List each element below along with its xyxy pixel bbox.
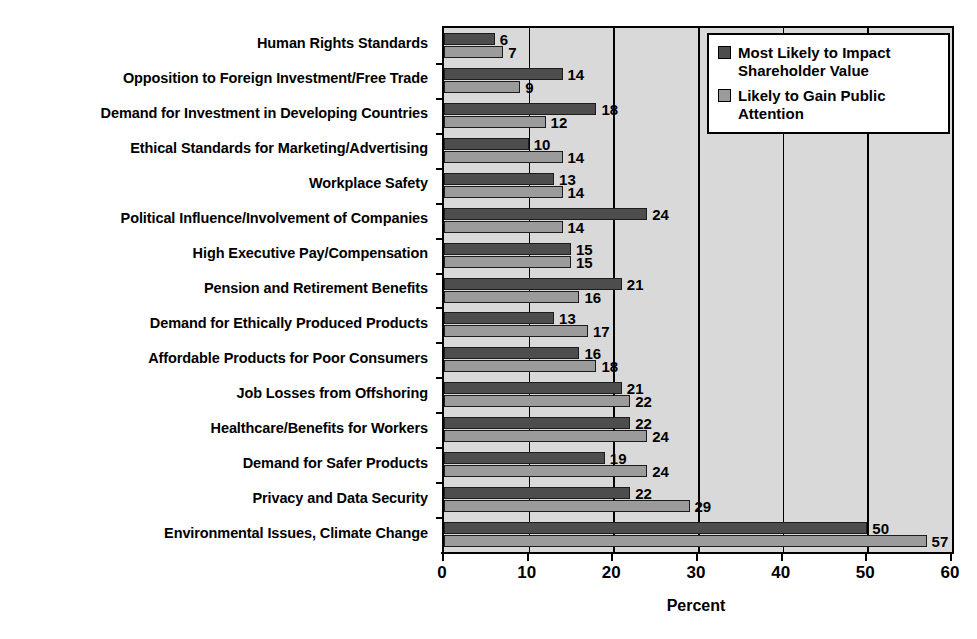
category-label: Workplace Safety [309, 176, 428, 191]
bar-1 [444, 81, 520, 93]
x-tick-label: 10 [517, 564, 536, 581]
bar-0 [444, 382, 622, 394]
bar-1 [444, 430, 647, 442]
bar-0 [444, 487, 630, 499]
bar-0 [444, 312, 554, 324]
bar-value-label: 14 [568, 149, 585, 164]
bar-0 [444, 243, 571, 255]
dark-swatch-icon [718, 46, 731, 59]
x-tick-label: 20 [602, 564, 621, 581]
legend-entry-most-likely-impact: Most Likely to Impact Shareholder Value [718, 44, 938, 79]
category-label: Affordable Products for Poor Consumers [148, 351, 428, 366]
bar-0 [444, 417, 630, 429]
y-tick [436, 447, 444, 449]
bar-value-label: 16 [584, 346, 601, 361]
category-label: Pension and Retirement Benefits [204, 281, 428, 296]
y-tick [436, 412, 444, 414]
category-label: Political Influence/Involvement of Compa… [121, 211, 428, 226]
bar-1 [444, 186, 563, 198]
bar-1 [444, 465, 647, 477]
y-tick [436, 63, 444, 65]
bar-0 [444, 103, 596, 115]
x-tick-60 [950, 552, 952, 561]
gridline-30 [698, 28, 700, 552]
category-axis: Human Rights StandardsOpposition to Fore… [0, 26, 436, 550]
bar-value-label: 16 [584, 289, 601, 304]
bar-value-label: 21 [627, 276, 644, 291]
x-tick-label: 60 [941, 564, 960, 581]
x-tick-label: 40 [771, 564, 790, 581]
y-tick [436, 377, 444, 379]
bar-0 [444, 208, 647, 220]
bar-1 [444, 360, 596, 372]
bar-value-label: 22 [635, 394, 652, 409]
bar-0 [444, 68, 563, 80]
x-tick-30 [696, 552, 698, 561]
category-label: Environmental Issues, Climate Change [164, 525, 428, 540]
y-tick [436, 482, 444, 484]
category-label: Ethical Standards for Marketing/Advertis… [130, 141, 428, 156]
bar-value-label: 24 [652, 429, 669, 444]
x-tick-40 [781, 552, 783, 561]
legend-label: Most Likely to Impact Shareholder Value [738, 44, 938, 79]
category-label: Demand for Ethically Produced Products [150, 316, 428, 331]
bar-0 [444, 33, 495, 45]
category-label: Opposition to Foreign Investment/Free Tr… [123, 71, 428, 86]
bar-1 [444, 325, 588, 337]
category-label: Privacy and Data Security [252, 490, 428, 505]
legend-label: Likely to Gain Public Attention [738, 87, 938, 122]
bar-1 [444, 395, 630, 407]
bar-value-label: 24 [652, 464, 669, 479]
bar-value-label: 18 [601, 101, 618, 116]
bar-value-label: 13 [559, 311, 576, 326]
category-label: Healthcare/Benefits for Workers [211, 420, 428, 435]
y-tick [436, 307, 444, 309]
bar-1 [444, 500, 690, 512]
bar-value-label: 14 [568, 66, 585, 81]
bar-value-label: 7 [508, 44, 516, 59]
bar-value-label: 50 [872, 521, 889, 536]
x-tick-0 [442, 552, 444, 561]
bar-value-label: 29 [695, 499, 712, 514]
bar-value-label: 12 [551, 114, 568, 129]
x-axis: 0102030405060 [442, 552, 950, 592]
bar-1 [444, 46, 503, 58]
bar-0 [444, 522, 867, 534]
legend-entry-public-attention: Likely to Gain Public Attention [718, 87, 938, 122]
grouped-bar-chart: Human Rights StandardsOpposition to Fore… [0, 0, 977, 639]
x-tick-label: 30 [687, 564, 706, 581]
category-label: Human Rights Standards [257, 36, 428, 51]
bar-value-label: 15 [576, 254, 593, 269]
bar-1 [444, 221, 563, 233]
bar-0 [444, 347, 579, 359]
bar-value-label: 18 [601, 359, 618, 374]
bar-value-label: 57 [932, 534, 949, 549]
light-swatch-icon [718, 89, 731, 102]
bar-value-label: 22 [635, 416, 652, 431]
bar-1 [444, 535, 927, 547]
y-tick [436, 168, 444, 170]
bar-value-label: 17 [593, 324, 610, 339]
category-label: High Executive Pay/Compensation [193, 246, 428, 261]
y-tick [436, 273, 444, 275]
bar-value-label: 19 [610, 451, 627, 466]
bar-1 [444, 291, 579, 303]
bar-0 [444, 452, 605, 464]
x-tick-10 [527, 552, 529, 561]
bar-0 [444, 173, 554, 185]
y-tick [436, 342, 444, 344]
bar-value-label: 14 [568, 219, 585, 234]
y-tick [436, 517, 444, 519]
bar-0 [444, 138, 529, 150]
x-axis-title: Percent [442, 598, 950, 614]
bar-1 [444, 151, 563, 163]
y-tick [436, 203, 444, 205]
bar-value-label: 9 [525, 79, 533, 94]
y-tick [436, 133, 444, 135]
chart-legend: Most Likely to Impact Shareholder Value … [707, 33, 950, 134]
bar-value-label: 6 [500, 31, 508, 46]
bar-value-label: 14 [568, 184, 585, 199]
bar-1 [444, 256, 571, 268]
bar-value-label: 22 [635, 486, 652, 501]
bar-value-label: 24 [652, 206, 669, 221]
